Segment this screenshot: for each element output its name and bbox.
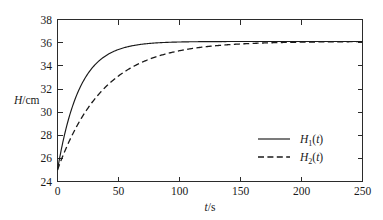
y-tick-label: 34 [41, 60, 53, 72]
legend: H1(t) H2(t) [258, 133, 323, 166]
chart-canvas: 24 26 28 30 32 34 36 38 0 50 100 150 200… [0, 0, 383, 220]
y-tick-label: 36 [41, 37, 53, 49]
y-tick-label: 32 [41, 83, 53, 95]
y-tick-label: 26 [41, 152, 53, 164]
x-tick-label: 150 [232, 185, 250, 197]
y-tick-label: 28 [41, 129, 53, 141]
legend-label-h2: H2(t) [299, 151, 323, 166]
x-tick-label: 100 [171, 185, 189, 197]
x-axis-title: t/s [205, 201, 216, 213]
x-tick-label: 50 [113, 185, 125, 197]
x-tick-label: 0 [55, 185, 61, 197]
y-axis-title: H/cm [13, 94, 40, 106]
x-tick-label: 250 [354, 185, 372, 197]
y-tick-label: 30 [41, 106, 53, 118]
y-tick-label: 38 [41, 14, 53, 26]
y-axis-title-unit: /cm [22, 94, 39, 106]
y-tick-label: 24 [41, 176, 53, 188]
legend-label-h1: H1(t) [299, 133, 323, 148]
x-axis-title-unit: /s [208, 201, 216, 213]
x-tick-label: 200 [293, 185, 311, 197]
x-tick-labels: 0 50 100 150 200 250 [55, 185, 372, 197]
y-tick-labels: 24 26 28 30 32 34 36 38 [41, 14, 53, 188]
chart-figure: 24 26 28 30 32 34 36 38 0 50 100 150 200… [0, 0, 383, 220]
